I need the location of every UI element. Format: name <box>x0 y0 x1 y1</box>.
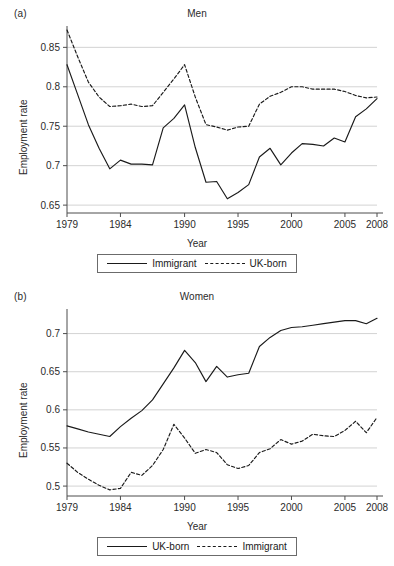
svg-text:1984: 1984 <box>109 502 132 513</box>
figure-employment-rate: (a) Men Employment rate Year 0.650.70.75… <box>0 0 394 566</box>
svg-text:2000: 2000 <box>280 219 303 230</box>
panel-men: (a) Men Employment rate Year 0.650.70.75… <box>0 0 394 283</box>
svg-text:0.85: 0.85 <box>41 42 61 53</box>
svg-text:0.5: 0.5 <box>46 481 60 492</box>
svg-text:0.7: 0.7 <box>46 160 60 171</box>
svg-text:2008: 2008 <box>366 219 389 230</box>
legend-women: UK-born Immigrant <box>97 537 297 556</box>
legend-key-solid-icon <box>107 263 147 264</box>
svg-text:2008: 2008 <box>366 502 389 513</box>
legend-entry-immigrant: Immigrant <box>107 258 196 269</box>
legend-men: Immigrant UK-born <box>97 254 297 273</box>
svg-text:1990: 1990 <box>173 502 196 513</box>
svg-text:2000: 2000 <box>280 502 303 513</box>
legend-label-immigrant: Immigrant <box>242 541 286 552</box>
svg-text:2005: 2005 <box>334 502 357 513</box>
svg-text:0.8: 0.8 <box>46 81 60 92</box>
legend-entry-immigrant: Immigrant <box>197 541 286 552</box>
svg-text:1984: 1984 <box>109 219 132 230</box>
svg-text:0.65: 0.65 <box>41 366 61 377</box>
svg-text:1990: 1990 <box>173 219 196 230</box>
legend-key-dashed-icon <box>205 263 245 264</box>
svg-text:0.65: 0.65 <box>41 200 61 211</box>
legend-key-dashed-icon <box>197 546 237 547</box>
legend-entry-uk-born: UK-born <box>205 258 287 269</box>
legend-label-uk-born: UK-born <box>250 258 287 269</box>
plot-area-women: 0.50.550.60.650.719791984199019952000200… <box>0 283 394 566</box>
svg-text:0.7: 0.7 <box>46 328 60 339</box>
svg-text:2005: 2005 <box>334 219 357 230</box>
svg-text:1995: 1995 <box>227 219 250 230</box>
plot-area-men: 0.650.70.750.80.851979198419901995200020… <box>0 0 394 283</box>
svg-text:1979: 1979 <box>56 502 79 513</box>
legend-entry-uk-born: UK-born <box>107 541 189 552</box>
legend-label-immigrant: Immigrant <box>152 258 196 269</box>
svg-text:1979: 1979 <box>56 219 79 230</box>
legend-key-solid-icon <box>107 546 147 547</box>
svg-text:0.6: 0.6 <box>46 404 60 415</box>
svg-text:0.55: 0.55 <box>41 442 61 453</box>
svg-text:0.75: 0.75 <box>41 121 61 132</box>
legend-label-uk-born: UK-born <box>152 541 189 552</box>
panel-women: (b) Women Employment rate Year 0.50.550.… <box>0 283 394 566</box>
svg-text:1995: 1995 <box>227 502 250 513</box>
